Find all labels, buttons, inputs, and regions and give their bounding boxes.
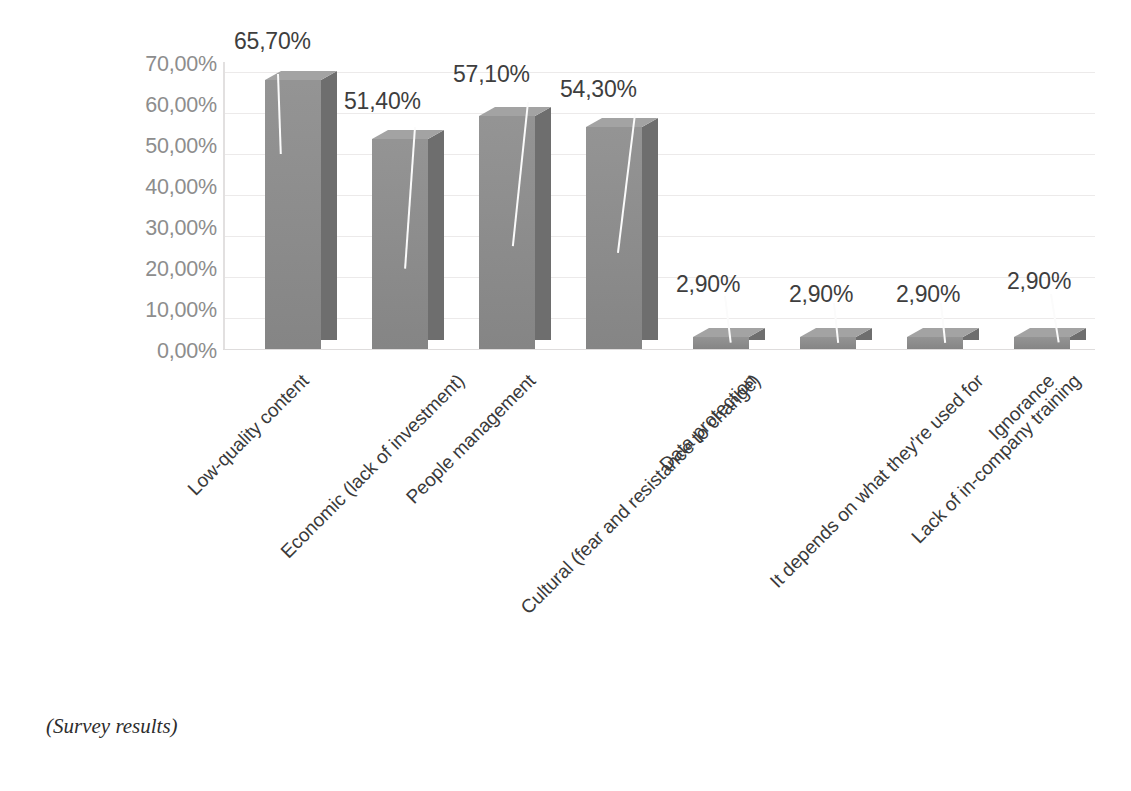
category-label-lack-of-training: Lack of in-company training — [907, 370, 1085, 548]
data-label: 2,90% — [789, 281, 853, 308]
bar-column[interactable] — [479, 116, 535, 349]
y-tick-label: 50,00% — [95, 134, 217, 159]
x-axis-baseline — [223, 349, 1095, 350]
gridline — [225, 195, 1095, 196]
y-tick-label: 10,00% — [95, 298, 217, 323]
y-tick-label: 0,00% — [95, 339, 217, 364]
data-label: 2,90% — [676, 271, 740, 298]
bar-front-face — [372, 139, 428, 349]
bar-front-face — [693, 337, 749, 349]
bar-side-face — [535, 107, 551, 340]
data-label: 65,70% — [234, 28, 311, 55]
y-tick-label: 40,00% — [95, 175, 217, 200]
bar-column[interactable] — [693, 337, 749, 349]
bar-front-face — [479, 116, 535, 349]
y-tick-label: 30,00% — [95, 216, 217, 241]
data-label: 57,10% — [453, 61, 530, 88]
bar-front-face — [265, 80, 321, 349]
chart-page: 70,00% 60,00% 50,00% 40,00% 30,00% 20,00… — [0, 0, 1131, 791]
bar-column[interactable] — [1014, 337, 1070, 349]
figure-caption: (Survey results) — [46, 714, 178, 739]
y-tick-label: 60,00% — [95, 93, 217, 118]
data-label: 2,90% — [1007, 268, 1071, 295]
y-tick-label: 70,00% — [95, 52, 217, 77]
gridline — [225, 236, 1095, 237]
bar-column[interactable] — [265, 80, 321, 349]
data-label: 54,30% — [560, 76, 637, 103]
gridline — [225, 154, 1095, 155]
y-axis-line — [223, 62, 225, 350]
y-tick-label: 20,00% — [95, 257, 217, 282]
gridline — [225, 277, 1095, 278]
gridline — [225, 72, 1095, 73]
bar-front-face — [800, 337, 856, 349]
bar-column[interactable] — [372, 139, 428, 349]
bar-side-face — [428, 130, 444, 340]
bar-column[interactable] — [800, 337, 856, 349]
y-axis: 70,00% 60,00% 50,00% 40,00% 30,00% 20,00… — [95, 52, 217, 362]
bar-side-face — [321, 71, 337, 340]
category-label-people-management: People management — [402, 370, 540, 508]
bar-column[interactable] — [586, 127, 642, 349]
bar-side-face — [642, 118, 658, 340]
bar-front-face — [1014, 337, 1070, 349]
category-label-low-quality-content: Low-quality content — [183, 370, 313, 500]
data-label: 2,90% — [896, 281, 960, 308]
gridline — [225, 318, 1095, 319]
category-label-it-depends: It depends on what they're used for — [766, 370, 989, 593]
bar-front-face — [907, 337, 963, 349]
bar-front-face — [586, 127, 642, 349]
data-label: 51,40% — [344, 88, 421, 115]
bar-column[interactable] — [907, 337, 963, 349]
category-label-data-protection: Data protection — [655, 370, 761, 476]
